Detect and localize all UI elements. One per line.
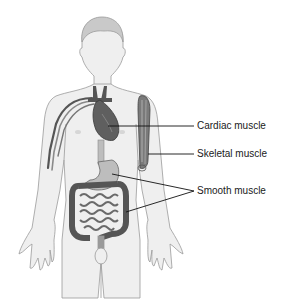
esophagus (98, 140, 104, 164)
label-cardiac-muscle: Cardiac muscle (197, 120, 266, 132)
label-skeletal-muscle: Skeletal muscle (197, 148, 267, 160)
transverse-colon (78, 184, 118, 186)
label-smooth-muscle: Smooth muscle (197, 185, 266, 197)
skeletal-arm-muscle (138, 96, 150, 171)
